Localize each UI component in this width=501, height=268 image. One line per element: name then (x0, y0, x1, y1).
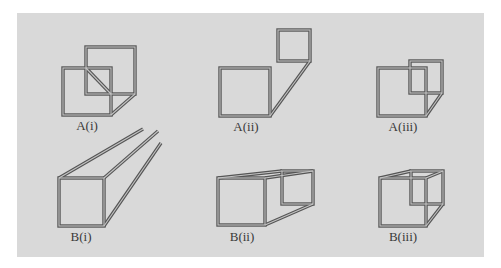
label-a-ii: A(ii) (233, 119, 258, 135)
shape-a-ii (220, 30, 310, 116)
label-b-i: B(i) (71, 229, 92, 245)
shape-b-ii (218, 171, 313, 225)
label-a-i: A(i) (76, 118, 98, 134)
shape-a-iii (378, 61, 442, 116)
label-b-iii: B(iii) (389, 229, 417, 245)
shape-b-i (59, 129, 161, 226)
label-b-ii: B(ii) (230, 229, 255, 245)
shape-b-iii (380, 171, 443, 226)
shape-a-i (63, 47, 135, 115)
label-a-iii: A(iii) (389, 119, 418, 135)
